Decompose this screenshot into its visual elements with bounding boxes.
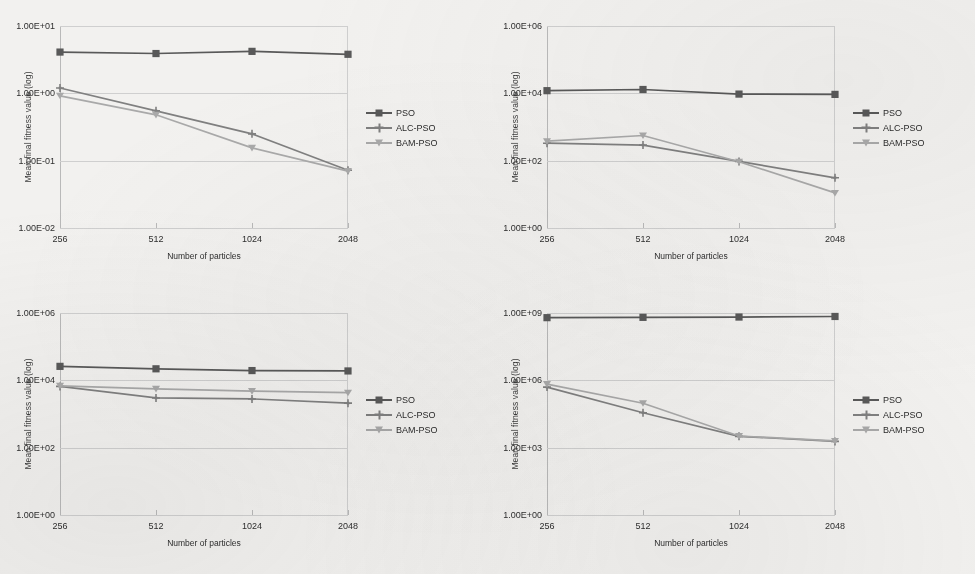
legend-square-icon: [853, 394, 879, 405]
legend-label: BAM-PSO: [396, 138, 438, 148]
legend-item-alc-pso[interactable]: ALC-PSO: [853, 407, 925, 422]
legend-square-icon: [853, 107, 879, 118]
legend-plus-icon: [366, 409, 392, 420]
chart-legend: PSOALC-PSOBAM-PSO: [366, 392, 438, 437]
legend-item-pso[interactable]: PSO: [853, 105, 925, 120]
legend-item-pso[interactable]: PSO: [366, 105, 438, 120]
legend-item-alc-pso[interactable]: ALC-PSO: [366, 407, 438, 422]
legend-plus-icon: [366, 122, 392, 133]
legend-label: ALC-PSO: [396, 123, 436, 133]
chart-legend: PSOALC-PSOBAM-PSO: [853, 392, 925, 437]
legend-item-alc-pso[interactable]: ALC-PSO: [853, 120, 925, 135]
chart-panel-top-left: Mean final fitness value (log)1.00E+011.…: [0, 0, 487, 287]
chart-panel-bottom-left: Mean final fitness value (log)1.00E+061.…: [0, 287, 487, 574]
legend-label: BAM-PSO: [396, 425, 438, 435]
legend-item-alc-pso[interactable]: ALC-PSO: [366, 120, 438, 135]
legend-item-bam-pso[interactable]: BAM-PSO: [366, 422, 438, 437]
chart-panel-bottom-right: Mean final fitness value (log)1.00E+091.…: [487, 287, 975, 574]
legend-plus-icon: [853, 122, 879, 133]
chart-legend: PSOALC-PSOBAM-PSO: [853, 105, 925, 150]
chart-legend: PSOALC-PSOBAM-PSO: [366, 105, 438, 150]
legend-item-pso[interactable]: PSO: [853, 392, 925, 407]
figure-panel-grid: Mean final fitness value (log)1.00E+011.…: [0, 0, 975, 574]
legend-label: PSO: [396, 395, 415, 405]
legend-label: ALC-PSO: [396, 410, 436, 420]
legend-item-bam-pso[interactable]: BAM-PSO: [853, 422, 925, 437]
legend-label: ALC-PSO: [883, 410, 923, 420]
chart-panel-top-right: Mean final fitness value (log)1.00E+061.…: [487, 0, 975, 287]
legend-square-icon: [366, 107, 392, 118]
legend-triangle-icon: [366, 137, 392, 148]
chart-panel-top-left: Mean final fitness value (log)1.00E+011.…: [0, 0, 487, 287]
chart-panel-top-right: Mean final fitness value (log)1.00E+061.…: [487, 0, 975, 287]
legend-triangle-icon: [366, 424, 392, 435]
legend-label: BAM-PSO: [883, 425, 925, 435]
legend-item-bam-pso[interactable]: BAM-PSO: [853, 135, 925, 150]
chart-panel-bottom-left: Mean final fitness value (log)1.00E+061.…: [0, 287, 487, 574]
legend-item-bam-pso[interactable]: BAM-PSO: [366, 135, 438, 150]
legend-label: PSO: [883, 395, 902, 405]
legend-plus-icon: [853, 409, 879, 420]
legend-label: ALC-PSO: [883, 123, 923, 133]
legend-label: PSO: [396, 108, 415, 118]
legend-label: PSO: [883, 108, 902, 118]
legend-triangle-icon: [853, 137, 879, 148]
chart-panel-bottom-right: Mean final fitness value (log)1.00E+091.…: [487, 287, 975, 574]
legend-triangle-icon: [853, 424, 879, 435]
legend-label: BAM-PSO: [883, 138, 925, 148]
legend-item-pso[interactable]: PSO: [366, 392, 438, 407]
legend-square-icon: [366, 394, 392, 405]
